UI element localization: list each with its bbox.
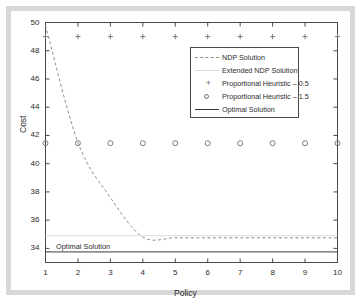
plus-marker-key: + bbox=[195, 77, 219, 90]
y-axis-title-wrap: Cost bbox=[12, 116, 30, 133]
x-tick-label: 2 bbox=[70, 269, 86, 277]
legend-label: NDP Solution bbox=[222, 53, 265, 62]
legend-label: Proportional Heuristic – 0.5 bbox=[222, 79, 309, 88]
dashed-line-key-glyph bbox=[195, 57, 219, 58]
y-tick-label: 38 bbox=[24, 188, 40, 196]
y-tick-label: 50 bbox=[24, 19, 40, 27]
faint-line-key bbox=[195, 64, 219, 77]
legend-item-4[interactable]: Optimal Solution bbox=[191, 103, 300, 116]
faint-line-key-glyph bbox=[195, 70, 219, 71]
x-tick-label: 6 bbox=[200, 269, 216, 277]
legend-label: Optimal Solution bbox=[222, 105, 275, 114]
y-tick-label: 48 bbox=[24, 47, 40, 55]
plus-marker-glyph: + bbox=[203, 77, 214, 90]
x-tick-label: 1 bbox=[38, 269, 54, 277]
y-tick-label: 40 bbox=[24, 160, 40, 168]
annotation-optimal-solution: Optimal Solution bbox=[56, 242, 110, 251]
dashed-line-key bbox=[195, 51, 219, 64]
figure-container: 343638404244464850 12345678910 Cost Poli… bbox=[0, 0, 361, 307]
x-tick-label: 10 bbox=[330, 269, 346, 277]
solid-line-key-glyph bbox=[195, 109, 219, 110]
legend-item-2[interactable]: +Proportional Heuristic – 0.5 bbox=[191, 77, 300, 90]
legend-item-1[interactable]: Extended NDP Solution bbox=[191, 64, 300, 77]
x-tick-label: 7 bbox=[232, 269, 248, 277]
x-tick-label: 3 bbox=[102, 269, 118, 277]
legend-label: Proportional Heuristic – 1.5 bbox=[222, 92, 309, 101]
x-tick-label: 9 bbox=[297, 269, 313, 277]
legend-label: Extended NDP Solution bbox=[222, 66, 297, 75]
y-axis-title: Cost bbox=[18, 116, 28, 133]
circle-marker-glyph bbox=[204, 94, 209, 99]
plot-canvas bbox=[0, 0, 361, 307]
solid-line-key bbox=[195, 103, 219, 116]
y-tick-label: 34 bbox=[24, 244, 40, 252]
circle-marker-key bbox=[195, 90, 219, 103]
legend[interactable]: NDP SolutionExtended NDP Solution+Propor… bbox=[190, 47, 299, 118]
y-tick-label: 44 bbox=[24, 103, 40, 111]
x-axis-title: Policy bbox=[174, 289, 197, 298]
legend-item-3[interactable]: Proportional Heuristic – 1.5 bbox=[191, 90, 300, 103]
x-tick-label: 8 bbox=[265, 269, 281, 277]
x-tick-label: 4 bbox=[135, 269, 151, 277]
x-tick-label: 5 bbox=[167, 269, 183, 277]
y-tick-label: 46 bbox=[24, 75, 40, 83]
y-tick-label: 36 bbox=[24, 216, 40, 224]
legend-item-0[interactable]: NDP Solution bbox=[191, 51, 300, 64]
